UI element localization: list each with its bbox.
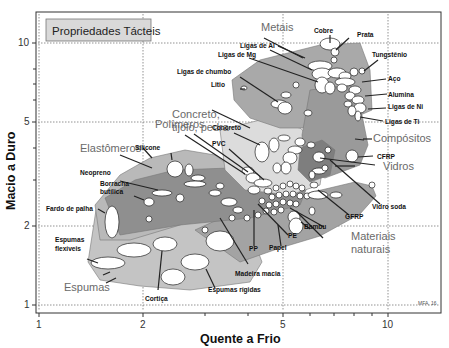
label-ligas-ti: Ligas de Ti <box>385 118 419 126</box>
label-ligas-mg: Ligas de Mg <box>218 51 256 59</box>
label-litio: Litio <box>211 81 225 88</box>
label-cortica: Cortiça <box>145 295 168 303</box>
label-prata: Prata <box>357 31 374 38</box>
label-ligas-chumbo: Ligas de chumbo <box>177 68 231 76</box>
label-aco: Aço <box>388 75 400 83</box>
label-tungstenio: Tungstênio <box>372 51 407 59</box>
y-tick-10: 10 <box>18 37 30 48</box>
y-tick-2: 2 <box>24 220 30 231</box>
x-tick-10: 10 <box>382 319 394 330</box>
family-label-compositos: Compósitos <box>373 132 432 144</box>
label-espumas-flexiveis-2: flexíveis <box>55 245 81 252</box>
label-silicone: Silicone <box>135 144 161 151</box>
label-ligas-ni: Ligas de Ni <box>388 103 423 111</box>
label-borracha-1: Borracha <box>100 180 129 187</box>
label-bambu: Bambu <box>304 223 326 230</box>
label-papel: Papel <box>269 244 287 252</box>
label-pe: PE <box>288 232 297 239</box>
label-espumas-flexiveis-1: Espumas <box>55 236 85 244</box>
label-cfrp: CFRP <box>377 153 396 160</box>
chart-title: Propriedades Tácteis <box>52 25 161 37</box>
family-label-naturais-1: Materiais <box>351 230 396 242</box>
tactile-properties-chart: Propriedades Tácteis Metais Concreto, ti… <box>0 0 449 348</box>
label-gfrp: GFRP <box>345 213 364 220</box>
y-tick-1: 1 <box>24 299 30 310</box>
label-vidro-soda: Vidro soda <box>372 203 406 210</box>
label-pp: PP <box>249 245 258 252</box>
label-borracha-2: butílica <box>100 188 123 195</box>
label-fardo-de-palha: Fardo de palha <box>46 205 93 213</box>
x-tick-5: 5 <box>280 319 286 330</box>
y-tick-5: 5 <box>24 116 30 127</box>
y-axis-ticks <box>32 43 36 305</box>
family-label-espumas: Espumas <box>64 281 110 293</box>
label-alumina: Alumina <box>388 91 414 98</box>
x-tick-1: 1 <box>36 319 42 330</box>
label-ligas-al: Ligas de Al <box>240 42 275 50</box>
label-pvc: PVC <box>212 140 226 147</box>
family-label-polimeros: Polímeros <box>155 118 205 130</box>
family-label-elastomeros: Elastômeros <box>80 142 142 154</box>
label-cobre: Cobre <box>314 27 333 34</box>
family-label-metais: Metais <box>261 21 294 33</box>
x-tick-2: 2 <box>140 319 146 330</box>
family-label-vidros: Vidros <box>383 160 414 172</box>
source-annotation: MFA, 16 <box>418 300 437 306</box>
label-madeira-macia: Madeira macia <box>235 270 281 277</box>
x-axis-title: Quente a Frio <box>200 332 281 346</box>
chart-title-box: Propriedades Tácteis <box>46 19 161 41</box>
label-concreto: Concreto <box>212 124 241 131</box>
x-axis-ticks <box>39 313 388 317</box>
y-axis-title: Macio a Duro <box>4 131 18 210</box>
family-label-naturais-2: naturais <box>351 243 391 255</box>
label-neopreno: Neopreno <box>80 169 111 177</box>
label-espumas-rigidas: Espumas rígidas <box>208 286 261 294</box>
